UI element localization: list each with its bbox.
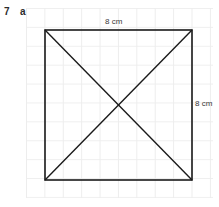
right-side-dimension-label: 8 cm xyxy=(195,99,212,109)
worksheet-figure-page: 7 a 8 cm 8 cm xyxy=(0,0,219,207)
square-with-diagonals-figure xyxy=(0,0,219,207)
top-side-dimension-label: 8 cm xyxy=(105,17,122,27)
